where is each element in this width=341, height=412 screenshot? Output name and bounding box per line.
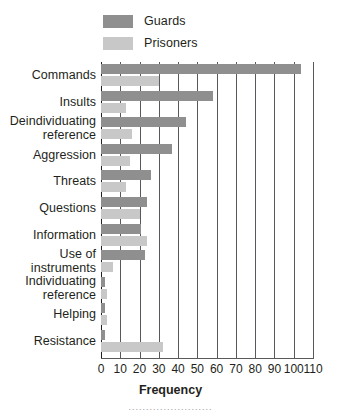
category-label: Resistance [0,334,96,348]
category-axis-labels: CommandsInsultsDeindividuatingreferenceA… [0,62,96,358]
category-label: Commands [0,68,96,82]
category-label: Use ofinstruments [0,247,96,275]
legend-label-guards: Guards [144,15,186,28]
bar-guards [101,224,141,234]
bar-prisoners [101,103,126,113]
bar-prisoners [101,262,113,272]
bar-prisoners [101,182,126,192]
bar-group [101,197,313,220]
value-axis-labels: 0102030405060708090100110 [0,362,341,378]
x-axis-line [101,358,314,359]
bar-prisoners [101,156,130,166]
bar-prisoners [101,76,159,86]
legend-item-prisoners: Prisoners [103,34,198,53]
bar-group [101,144,313,167]
bar-prisoners [101,342,163,352]
bar-guards [101,117,186,127]
category-label: Insults [0,95,96,109]
gridline [313,62,314,358]
bar-prisoners [101,236,147,246]
bar-group [101,330,313,353]
legend-swatch-guards [103,15,133,28]
legend-item-guards: Guards [103,12,198,31]
chart-legend: Guards Prisoners [103,12,198,56]
bar-guards [101,250,145,260]
bar-prisoners [101,315,107,325]
bar-group [101,170,313,193]
category-label: Questions [0,201,96,215]
legend-swatch-prisoners [103,37,133,50]
category-label: Information [0,228,96,242]
bar-group [101,303,313,326]
bar-guards [101,277,105,287]
footer-dotted-rule: ........................ [0,402,341,412]
x-tick-label: 110 [301,362,325,376]
bar-guards [101,170,151,180]
bar-guards [101,91,213,101]
x-axis-title: Frequency [0,383,341,397]
bar-prisoners [101,289,107,299]
bar-group [101,64,313,87]
legend-label-prisoners: Prisoners [144,37,198,50]
bar-guards [101,144,172,154]
bar-group [101,117,313,140]
category-label: Deindividuatingreference [0,114,96,142]
bar-group [101,250,313,273]
category-label: Helping [0,307,96,321]
bar-group [101,224,313,247]
bar-group [101,277,313,300]
bar-guards [101,303,105,313]
bar-guards [101,330,105,340]
bar-group [101,91,313,114]
bar-guards [101,197,147,207]
bar-prisoners [101,129,132,139]
bar-prisoners [101,209,140,219]
category-label: Threats [0,174,96,188]
bar-guards [101,64,301,74]
category-label: Individuatingreference [0,274,96,302]
plot-area [101,62,313,358]
category-label: Aggression [0,148,96,162]
